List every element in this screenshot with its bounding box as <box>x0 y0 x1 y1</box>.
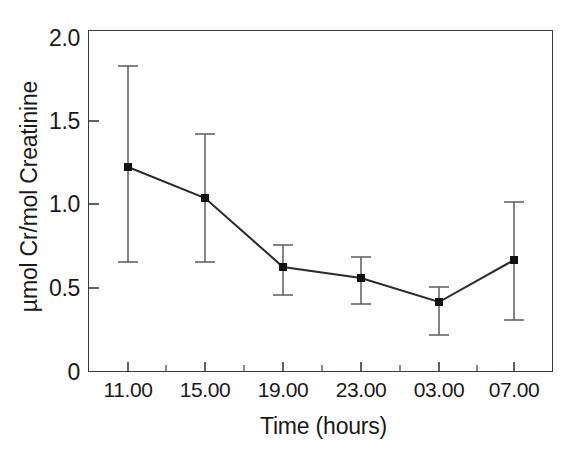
y-tick-label-2: 2.0 <box>49 27 80 50</box>
y-tick-label-0: 0 <box>68 361 81 384</box>
data-point-markers <box>124 163 518 306</box>
data-series-line <box>128 167 514 302</box>
x-axis-title: Time (hours) <box>0 413 577 440</box>
data-point <box>435 298 443 306</box>
data-point <box>201 194 209 202</box>
y-axis-title: µmol Cr/mol Creatinine <box>16 47 43 347</box>
data-point <box>357 274 365 282</box>
x-tick-label-0700: 07.00 <box>469 379 559 400</box>
data-point <box>510 256 518 264</box>
x-tick-label-1500: 15.00 <box>160 379 250 400</box>
y-axis-major-ticks <box>88 121 99 288</box>
y-tick-label-1: 1.0 <box>49 193 80 216</box>
x-axis-minor-ticks <box>166 365 477 372</box>
x-tick-label-1900: 19.00 <box>238 379 328 400</box>
chart-figure: 2.0 1.5 1.0 0.5 0 µmol Cr/mol Creatinine… <box>0 0 577 464</box>
y-tick-label-0_5: 0.5 <box>49 277 80 300</box>
data-point <box>279 263 287 271</box>
x-axis-major-ticks <box>128 362 514 372</box>
x-axis-title-text: Time (hours) <box>260 413 387 440</box>
y-tick-label-1_5: 1.5 <box>49 110 80 133</box>
x-tick-label-2300: 23.00 <box>316 379 406 400</box>
error-bars <box>118 66 524 335</box>
data-point <box>124 163 132 171</box>
